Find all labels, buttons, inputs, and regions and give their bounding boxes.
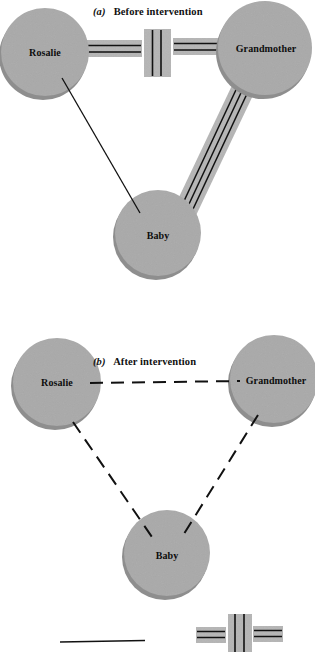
family-relationship-diagram: (a) Before intervention Rosalie Grandmot… xyxy=(0,0,315,652)
relationship-rosalie-baby xyxy=(62,78,140,213)
node-label-grandmother: Grandmother xyxy=(246,375,307,386)
legend-item-normal-relationship xyxy=(60,641,145,643)
caption-before-intervention: (a) Before intervention xyxy=(93,6,203,17)
panel-before-intervention: (a) Before intervention Rosalie Grandmot… xyxy=(0,0,315,300)
caption-text-a: Before intervention xyxy=(114,6,203,17)
node-label-baby: Baby xyxy=(147,230,170,241)
caption-letter-b: (b) xyxy=(93,356,106,367)
caption-text-b: After intervention xyxy=(113,356,196,367)
conflict-barrier-icon xyxy=(144,29,171,77)
caption-after-intervention: (b) After intervention xyxy=(93,356,196,367)
node-label-grandmother: Grandmother xyxy=(236,43,297,54)
legend-graphics xyxy=(0,600,315,652)
relationship-grandmother-baby xyxy=(182,415,258,537)
legend-item-conflict-relationship xyxy=(196,614,283,652)
relationship-rosalie-grandmother xyxy=(90,381,240,383)
node-label-rosalie: Rosalie xyxy=(41,377,73,388)
panel-after-intervention: (b) After intervention Rosalie Grandmoth… xyxy=(0,300,315,620)
node-label-baby: Baby xyxy=(156,550,179,561)
node-label-rosalie: Rosalie xyxy=(29,47,61,58)
caption-letter-a: (a) xyxy=(93,6,106,17)
panel-after-graphics xyxy=(0,300,315,620)
legend xyxy=(0,600,315,652)
conflict-barrier-icon xyxy=(228,614,252,652)
relationship-rosalie-grandmother xyxy=(76,29,239,77)
